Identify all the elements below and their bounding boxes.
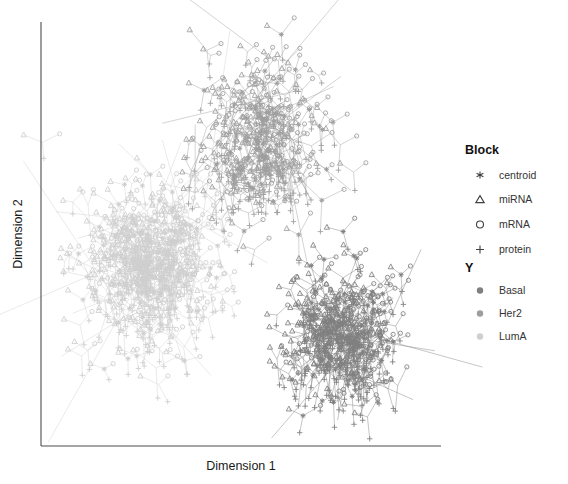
point-marker	[128, 190, 133, 195]
luma-dot-icon	[477, 333, 483, 339]
point-marker	[208, 101, 213, 106]
point-marker	[288, 208, 293, 213]
point-marker	[297, 176, 302, 181]
legend-item-mrna[interactable]: mRNA	[477, 218, 530, 230]
point-marker	[280, 57, 285, 62]
point-marker	[186, 201, 191, 206]
point-layer	[21, 0, 412, 442]
point-marker	[213, 284, 218, 289]
point-marker	[350, 394, 355, 399]
point-marker	[157, 198, 162, 203]
point-marker	[399, 289, 404, 294]
legend-item-centroid[interactable]: centroid	[477, 169, 537, 181]
point-marker	[94, 288, 99, 293]
link-edge	[334, 402, 335, 427]
point-marker	[201, 188, 206, 193]
point-marker	[337, 370, 342, 375]
figure-root: Dimension 1 Dimension 2 Block centroid m…	[0, 0, 568, 484]
point-marker	[288, 360, 293, 365]
legend-label-her2: Her2	[499, 307, 522, 319]
point-marker	[227, 109, 232, 114]
link-edge	[255, 238, 269, 249]
link-edge	[83, 300, 89, 321]
triangle-icon	[476, 196, 484, 203]
point-marker	[365, 303, 370, 308]
point-marker	[290, 377, 295, 382]
point-marker	[259, 182, 264, 187]
point-marker	[286, 291, 291, 296]
legend-item-luma[interactable]: LumA	[477, 330, 527, 342]
point-marker	[255, 115, 260, 120]
point-marker	[65, 287, 70, 292]
point-marker	[388, 264, 393, 269]
legend-item-basal[interactable]: Basal	[477, 284, 525, 296]
point-marker	[321, 257, 326, 262]
point-marker	[214, 210, 219, 215]
point-marker	[201, 46, 206, 51]
point-marker	[286, 406, 291, 411]
point-marker	[342, 397, 347, 402]
point-marker	[326, 299, 331, 304]
point-marker	[184, 272, 189, 277]
point-marker	[264, 117, 269, 122]
link-edge	[82, 356, 83, 375]
link-edge	[63, 271, 87, 277]
point-marker	[320, 398, 325, 403]
legend-item-protein[interactable]: protein	[476, 243, 531, 255]
legend-item-mirna[interactable]: miRNA	[476, 193, 532, 205]
point-marker	[267, 344, 272, 349]
link-edge	[320, 200, 321, 231]
link-edge	[99, 317, 106, 337]
point-marker	[330, 120, 335, 125]
point-marker	[58, 255, 63, 260]
legend-label-mirna: miRNA	[499, 193, 532, 205]
point-marker	[185, 371, 190, 376]
point-marker	[306, 396, 311, 401]
link-edge	[184, 332, 193, 348]
point-marker	[341, 229, 346, 234]
point-marker	[235, 248, 240, 253]
legend-item-her2[interactable]: Her2	[477, 307, 522, 319]
point-marker	[237, 108, 242, 113]
point-marker	[253, 104, 258, 109]
link-edge	[190, 30, 207, 51]
link-edge	[42, 134, 59, 143]
point-marker	[41, 156, 46, 161]
link-edge	[277, 83, 280, 99]
point-marker	[194, 187, 199, 192]
point-marker	[236, 206, 241, 211]
point-marker	[157, 171, 162, 176]
point-marker	[70, 266, 75, 271]
point-marker	[197, 118, 202, 123]
point-marker	[249, 261, 254, 266]
x-axis-title: Dimension 1	[206, 459, 276, 473]
link-edge	[354, 172, 355, 190]
point-marker	[271, 199, 276, 204]
point-marker	[281, 385, 286, 390]
point-marker	[312, 360, 317, 365]
point-marker	[188, 223, 193, 228]
point-marker	[140, 183, 145, 188]
point-marker	[277, 382, 282, 387]
point-marker	[351, 324, 356, 329]
point-marker	[267, 324, 272, 329]
point-marker	[329, 177, 334, 182]
point-marker	[178, 196, 182, 200]
point-marker	[58, 246, 63, 251]
point-marker	[231, 313, 236, 318]
block-legend-title: Block	[465, 143, 499, 157]
class-legend-title: Y	[465, 261, 474, 275]
her2-dot-icon	[477, 310, 483, 316]
point-marker	[234, 134, 239, 139]
point-marker	[135, 188, 139, 192]
point-marker	[196, 327, 201, 332]
link-edge	[388, 389, 393, 408]
point-marker	[194, 315, 199, 320]
point-marker	[391, 349, 396, 354]
point-marker	[341, 408, 346, 413]
point-marker	[275, 81, 280, 86]
point-marker	[333, 305, 338, 310]
point-marker	[125, 372, 130, 377]
point-marker	[102, 366, 107, 371]
point-marker	[186, 80, 191, 85]
